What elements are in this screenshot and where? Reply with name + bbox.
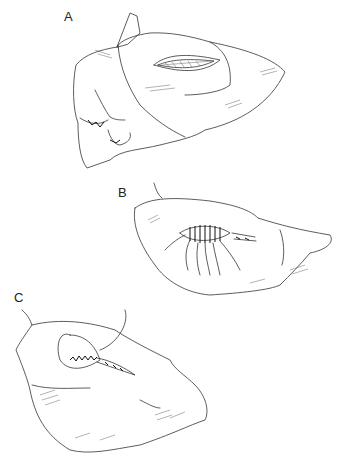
panel-c: C — [0, 290, 344, 463]
organ-drawing-b — [0, 175, 344, 300]
panel-b: B — [0, 175, 344, 300]
panel-a: A — [0, 0, 344, 175]
organ-drawing-a — [0, 0, 344, 175]
organ-drawing-c — [0, 290, 344, 463]
